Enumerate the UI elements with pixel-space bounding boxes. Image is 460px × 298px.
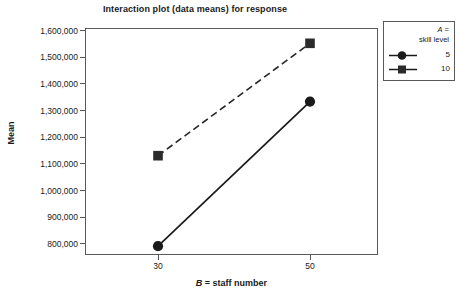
x-axis-label-text: = staff number: [202, 278, 267, 288]
x-tick-mark: [310, 255, 311, 260]
series-5-segment: [158, 102, 310, 247]
legend-label-10: 10: [422, 64, 450, 73]
plot-data-layer: [85, 28, 378, 255]
y-tick-label: 1,600,000: [12, 26, 78, 36]
y-tick-label: 1,000,000: [12, 186, 78, 196]
series-line-10: [158, 43, 310, 155]
x-tick-label: 30: [138, 261, 178, 271]
y-tick-label: 800,000: [12, 239, 78, 249]
legend-title: A =skill level: [387, 25, 449, 44]
x-axis-label: B = staff number: [85, 278, 378, 288]
interaction-plot-figure: Interaction plot (data means) for respon…: [0, 0, 460, 298]
x-tick-label: 50: [290, 261, 330, 271]
legend-item-10[interactable]: 10: [384, 62, 456, 75]
series-10-segment: [158, 43, 310, 155]
series-5-marker-circle: [153, 241, 163, 251]
series-5-marker-circle: [305, 97, 315, 107]
legend-item-5[interactable]: 5: [384, 48, 456, 61]
x-tick-mark: [158, 255, 159, 260]
legend-sample-circle: [388, 48, 418, 61]
legend-label-5: 5: [422, 50, 450, 59]
square-marker-icon: [388, 63, 418, 76]
chart-title: Interaction plot (data means) for respon…: [0, 4, 390, 14]
y-tick-label: 900,000: [12, 212, 78, 222]
y-tick-label: 1,500,000: [12, 52, 78, 62]
circle-marker-icon: [388, 49, 418, 62]
legend-sample-square: [388, 62, 418, 75]
y-tick-label: 1,300,000: [12, 106, 78, 116]
legend-title-equals: =: [443, 25, 449, 34]
y-tick-label: 1,100,000: [12, 159, 78, 169]
y-tick-label: 1,400,000: [12, 79, 78, 89]
legend-title-subtext: skill level: [419, 35, 449, 44]
legend: A =skill level 5 10: [383, 21, 455, 81]
y-tick-label: 1,200,000: [12, 132, 78, 142]
series-10-marker-square: [305, 39, 315, 49]
series-10-marker-square: [153, 151, 163, 161]
series-line-5: [158, 102, 310, 247]
